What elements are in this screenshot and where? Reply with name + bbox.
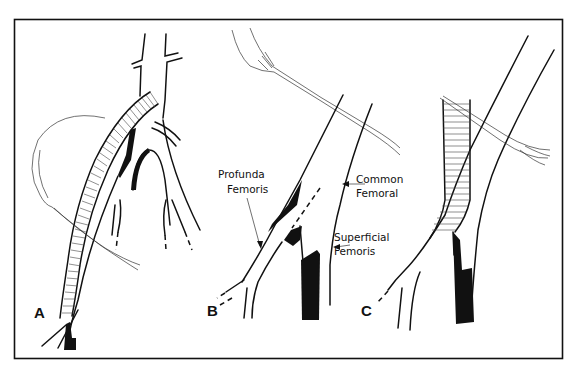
panel-label-a: A	[34, 304, 45, 321]
panel-c	[378, 36, 554, 330]
annotation-superficial-femoris: Superficial Femoris	[334, 231, 389, 257]
panel-label-b: B	[207, 302, 218, 319]
annotation-common-femoral: Common Femoral	[356, 173, 403, 199]
svg-text:Superficial: Superficial	[334, 231, 389, 243]
panel-a	[32, 34, 200, 350]
svg-text:Femoris: Femoris	[227, 183, 268, 195]
figure-frame	[15, 20, 563, 359]
panel-label-c: C	[361, 302, 372, 319]
svg-text:Profunda: Profunda	[218, 168, 265, 180]
svg-text:Common: Common	[356, 173, 403, 185]
svg-text:Femoral: Femoral	[356, 187, 398, 199]
femoral-artery-diagram: A Profunda Femoris Common Femo	[0, 0, 578, 372]
svg-text:Femoris: Femoris	[334, 245, 375, 257]
annotation-profunda-femoris: Profunda Femoris	[218, 168, 268, 195]
